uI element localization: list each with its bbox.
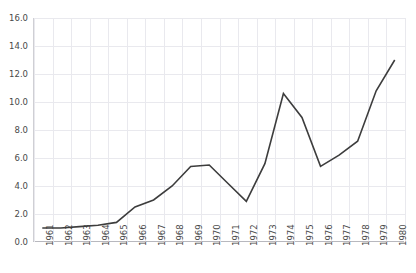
data-series-layer <box>0 0 416 273</box>
line-chart: 0.02.04.06.08.010.012.014.016.0 19611962… <box>0 0 416 273</box>
series-line <box>42 60 394 228</box>
